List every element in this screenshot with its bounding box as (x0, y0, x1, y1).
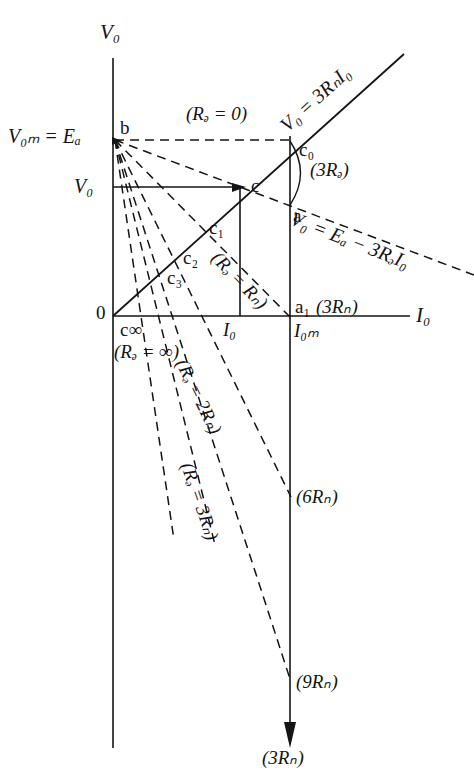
axis-label-v0: V₀ (100, 22, 120, 43)
point-label-b: b (120, 118, 130, 137)
marker-nine-rn: (9Rₙ) (296, 672, 338, 691)
level-label-v0: V₀ (74, 176, 93, 196)
axis-label-i0: I₀ (416, 305, 430, 326)
marker-three-rn: (3Rₙ) (316, 297, 358, 316)
point-label-a1: a₁ (295, 297, 310, 316)
level-label-v0m: V₀ₘ = Eₐ (8, 126, 81, 146)
point-label-c3: c₃ (167, 268, 182, 287)
figure-canvas: V₀ I₀ 0 V₀ₘ = Eₐ V₀ I₀ I₀ₘ b c c₀ c₁ c₂ … (0, 0, 474, 776)
point-label-cinf: c∞ (120, 320, 142, 339)
label-three-rf: (3Rₔ) (310, 160, 349, 179)
level-label-i0m: I₀ₘ (294, 321, 319, 340)
origin-label: 0 (96, 303, 106, 322)
c-arrow-head (232, 183, 246, 192)
marker-six-rn: (6Rₙ) (296, 487, 338, 506)
point-label-c0: c₀ (299, 140, 314, 159)
level-label-i0: I₀ (223, 320, 236, 339)
down-arrow-head (284, 722, 296, 748)
point-label-c: c (251, 176, 259, 195)
marker-three-rn-arrow: (3Rₙ) (262, 748, 304, 767)
label-rf-zero: (Rₔ = 0) (186, 104, 247, 123)
point-label-c2: c₂ (183, 248, 198, 267)
point-label-c1: c₁ (209, 218, 224, 237)
label-rf-infinity: (Rₔ = ∞) (114, 342, 179, 361)
